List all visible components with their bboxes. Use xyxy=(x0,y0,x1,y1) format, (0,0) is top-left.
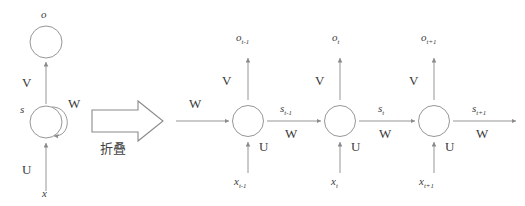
s-subscript-1: t-1 xyxy=(284,109,292,116)
folded-graph xyxy=(30,26,67,191)
unfolded-state-node-2 xyxy=(325,106,356,137)
unfolded-input-label-2: xt xyxy=(331,176,338,190)
fold-caption: 折叠 xyxy=(100,142,126,155)
s-subscript-3: t+1 xyxy=(476,109,486,116)
folded-state-label: s xyxy=(20,104,24,115)
fold-transform-arrow xyxy=(92,101,163,141)
unfolded-incoming-weight-label: W xyxy=(189,97,201,110)
folded-weight-W-label: W xyxy=(68,97,80,110)
o-subscript-3: t+1 xyxy=(427,38,437,45)
unfolded-weight-U-label-2: U xyxy=(351,140,360,153)
x-subscript-1: t-1 xyxy=(239,182,247,189)
unfolded-state-edge-label-3: st+1 xyxy=(472,103,486,117)
folded-self-loop xyxy=(52,107,67,136)
unfolded-output-label-1: ot-1 xyxy=(236,32,249,46)
unfolded-state-node-3 xyxy=(419,106,450,137)
unfolded-output-label-3: ot+1 xyxy=(421,32,436,46)
folded-input-label: x xyxy=(42,188,47,199)
rnn-unfolding-figure: o V s W U x 折叠 W ot-1 V U xt-1 st-1 W ot… xyxy=(0,0,525,206)
unfolded-weight-V-label-1: V xyxy=(222,74,231,87)
unfolded-output-label-2: ot xyxy=(332,32,339,46)
unfolded-weight-W-label-2: W xyxy=(379,127,391,140)
x-subscript-3: t+1 xyxy=(424,182,434,189)
unfolded-state-edge-label-2: st xyxy=(378,103,384,117)
unfolded-weight-U-label-3: U xyxy=(445,140,454,153)
unfolded-weight-V-label-2: V xyxy=(315,74,324,87)
unfolded-state-node-1 xyxy=(233,106,264,137)
folded-output-label: o xyxy=(41,9,47,20)
unfolded-weight-W-label-1: W xyxy=(285,127,297,140)
unfolded-weight-U-label-1: U xyxy=(259,140,268,153)
folded-state-node xyxy=(30,106,62,138)
unfolded-weight-V-label-3: V xyxy=(409,74,418,87)
unfolded-state-edge-label-1: st-1 xyxy=(280,103,292,117)
folded-weight-V-label: V xyxy=(22,76,31,89)
unfolded-weight-W-label-3: W xyxy=(476,127,488,140)
unfolded-input-label-3: xt+1 xyxy=(419,176,434,190)
s-subscript-2: t xyxy=(382,109,384,116)
folded-weight-U-label: U xyxy=(22,163,31,176)
x-subscript-2: t xyxy=(336,182,338,189)
o-subscript-1: t-1 xyxy=(242,38,250,45)
o-subscript-2: t xyxy=(338,38,340,45)
folded-output-node xyxy=(30,26,62,58)
unfolded-input-label-1: xt-1 xyxy=(234,176,246,190)
